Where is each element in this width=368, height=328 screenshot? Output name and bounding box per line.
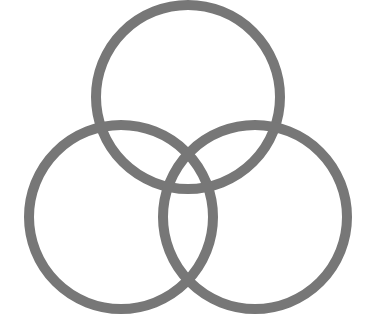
venn-diagram <box>0 0 368 328</box>
